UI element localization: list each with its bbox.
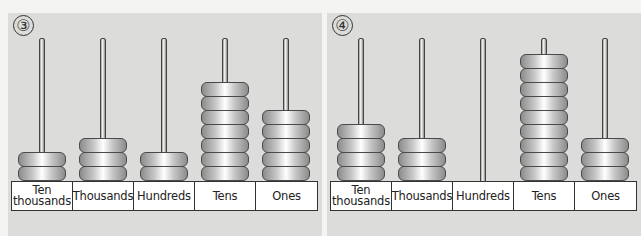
bead-stack-tens <box>520 55 568 181</box>
label-ten-thousands: Ten thousands <box>331 182 392 210</box>
label-hundreds: Hundreds <box>134 182 195 210</box>
label-ones: Ones <box>575 182 636 210</box>
bead <box>201 96 249 111</box>
bead-stack-ten-thousands <box>18 153 66 181</box>
bead <box>79 138 127 153</box>
bead <box>262 152 310 167</box>
bead <box>201 152 249 167</box>
bead <box>337 124 385 139</box>
bead <box>79 152 127 167</box>
bead-stack-thousands <box>398 139 446 181</box>
abacus-panel-4: ④ Ten thousands Thousands Hundreds Tens … <box>327 13 641 236</box>
bead <box>581 138 629 153</box>
label-tens: Tens <box>514 182 575 210</box>
bead <box>18 152 66 167</box>
bead <box>201 82 249 97</box>
bead <box>201 110 249 125</box>
bead-stack-ten-thousands <box>337 125 385 181</box>
bead <box>398 166 446 181</box>
bead <box>262 124 310 139</box>
label-ten-thousands: Ten thousands <box>12 182 73 210</box>
bead <box>262 166 310 181</box>
bead <box>581 152 629 167</box>
bead <box>201 166 249 181</box>
abacus-panel-3: ③ Ten thousands Thousands Hundreds Tens … <box>8 13 322 236</box>
bead-stack-ones <box>262 111 310 181</box>
bead-stack-hundreds <box>140 153 188 181</box>
rod <box>480 38 486 183</box>
label-thousands: Thousands <box>392 182 453 210</box>
bead <box>520 96 568 111</box>
bead-stack-ones <box>581 139 629 181</box>
bead <box>201 138 249 153</box>
bead <box>520 138 568 153</box>
bead <box>18 166 66 181</box>
label-hundreds: Hundreds <box>453 182 514 210</box>
bead <box>520 54 568 69</box>
bead <box>140 166 188 181</box>
bead <box>337 138 385 153</box>
bead <box>520 68 568 83</box>
bead <box>520 166 568 181</box>
bead <box>262 110 310 125</box>
bead-stack-tens <box>201 83 249 181</box>
bead <box>337 166 385 181</box>
bead <box>581 166 629 181</box>
bead <box>520 152 568 167</box>
label-thousands: Thousands <box>73 182 134 210</box>
label-ones: Ones <box>256 182 317 210</box>
bead <box>398 138 446 153</box>
bead <box>79 166 127 181</box>
bead <box>520 124 568 139</box>
bead <box>262 138 310 153</box>
place-value-labels: Ten thousands Thousands Hundreds Tens On… <box>330 181 637 211</box>
bead <box>337 152 385 167</box>
bead <box>140 152 188 167</box>
bead <box>201 124 249 139</box>
bead <box>520 82 568 97</box>
place-value-labels: Ten thousands Thousands Hundreds Tens On… <box>11 181 318 211</box>
label-tens: Tens <box>195 182 256 210</box>
bead <box>398 152 446 167</box>
bead <box>520 110 568 125</box>
bead-stack-thousands <box>79 139 127 181</box>
